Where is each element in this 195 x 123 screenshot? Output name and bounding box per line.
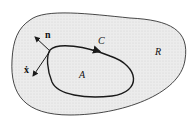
curve-label: C: [98, 35, 105, 46]
normal-label: n: [45, 29, 51, 40]
region-a-label: A: [78, 69, 86, 80]
velocity-label: ẋ: [24, 64, 29, 75]
region-r-label: R: [154, 46, 161, 57]
diagram-canvas: n ẋ C R A: [0, 0, 195, 123]
region-r-boundary: [12, 13, 186, 115]
